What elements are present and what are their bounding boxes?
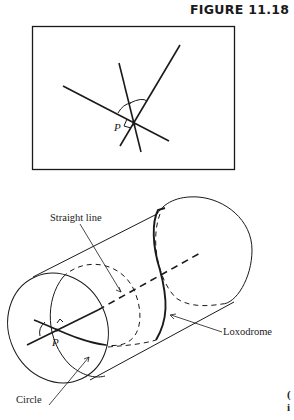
- edge-text-fragment-1: (: [287, 388, 291, 400]
- axis-solid: [27, 310, 98, 345]
- angle-arc-2: [130, 99, 147, 103]
- label-circle: Circle: [16, 394, 42, 405]
- edge-text-fragment-2: i: [287, 401, 290, 413]
- figure-canvas: P Straight line Loxo: [0, 0, 294, 420]
- back-ellipse-hidden: [156, 214, 222, 306]
- axis-dashed: [98, 252, 202, 310]
- back-ellipse-visible: [157, 197, 252, 304]
- label-straight-line: Straight line: [50, 212, 102, 223]
- point-p-label-top: P: [113, 121, 121, 133]
- panel-frame: [33, 27, 235, 170]
- cylinder: [0, 197, 252, 400]
- tangent-top: [33, 214, 157, 277]
- leader-loxodrome: [171, 315, 222, 332]
- right-angle-mark-p: [57, 319, 63, 323]
- leader-straight-line: [80, 224, 121, 292]
- point-p-label-bottom: P: [51, 336, 59, 348]
- leaders: [49, 224, 222, 405]
- circle-visible: [50, 277, 105, 377]
- label-loxodrome: Loxodrome: [223, 326, 272, 337]
- point-p: [133, 123, 136, 126]
- top-panel: [33, 27, 235, 170]
- tangent-bottom: [90, 302, 234, 380]
- point-p-cylinder: [56, 329, 59, 332]
